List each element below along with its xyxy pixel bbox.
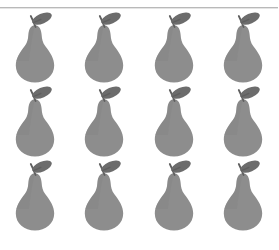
pear-icon-cell xyxy=(209,12,279,86)
pear-icon xyxy=(148,12,200,84)
page-canvas xyxy=(0,0,278,250)
pear-icon xyxy=(9,12,61,84)
pear-icon-cell xyxy=(209,86,279,160)
pear-icon-cell xyxy=(70,86,140,160)
pear-icon xyxy=(217,12,269,84)
pear-icon-cell xyxy=(139,86,209,160)
pear-icon-grid xyxy=(0,0,278,250)
pear-icon-cell xyxy=(70,160,140,234)
pear-icon-cell xyxy=(209,160,279,234)
pear-icon-cell xyxy=(0,160,70,234)
pear-icon xyxy=(78,12,130,84)
pear-icon xyxy=(9,86,61,158)
pear-icon-cell xyxy=(139,12,209,86)
pear-icon xyxy=(78,86,130,158)
pear-icon xyxy=(148,160,200,232)
pear-icon xyxy=(148,86,200,158)
pear-icon xyxy=(78,160,130,232)
pear-icon xyxy=(217,160,269,232)
pear-icon xyxy=(217,86,269,158)
pear-icon xyxy=(9,160,61,232)
pear-icon-cell xyxy=(70,12,140,86)
pear-icon-cell xyxy=(0,12,70,86)
pear-icon-cell xyxy=(0,86,70,160)
pear-icon-cell xyxy=(139,160,209,234)
